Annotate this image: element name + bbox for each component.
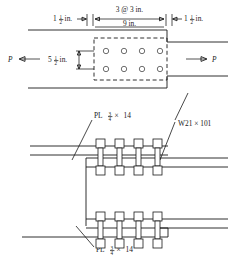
load-label-left: P [7,55,13,64]
lower-bolt [115,212,124,248]
edge-left-whole: 1 [53,14,57,23]
plate-top-width: 14 [124,111,132,120]
lower-bolt [134,212,143,248]
dim-label-edge-right: 1 1 2 in. [184,14,203,26]
edge-right-den: 2 [191,19,194,25]
beam-leader-upper [175,93,188,120]
dim-label-spacing: 3 @ 3 in. [116,5,143,14]
upper-bolt [134,139,143,175]
splice-plate-hidden-outline [94,38,167,80]
top-dimension-group: 1 1 2 in. 3 @ 3 in. 9 in. 1 1 2 in. [53,5,203,28]
plan-bolt-hole [121,48,126,53]
plate-top-prefix: PL [94,111,103,120]
plan-bolt-hole [139,48,144,53]
callout-plate-top: PL 3 4 × 14 [94,111,131,123]
plate-top-den: 4 [109,116,112,122]
edge-right-unit: in. [196,14,204,23]
plan-bolt-hole [121,66,126,71]
gage-whole: 5 [48,55,52,64]
lower-bolt [153,212,162,248]
plate-top-times: × [115,111,119,120]
dim-label-edge-left: 1 1 2 in. [53,14,72,26]
plan-bolt-hole [139,66,144,71]
plate-bottom-den: 4 [111,250,114,256]
svg-text:1: 1 [184,14,188,23]
edge-left-den: 2 [60,19,63,25]
upper-bolt [96,139,105,175]
plate-bottom-leader [76,226,94,247]
edge-right-whole: 1 [184,14,188,23]
engineering-drawing-figure: 1 1 2 in. 3 @ 3 in. 9 in. 1 1 2 in. [0,0,245,267]
plate-top-leader [72,120,92,160]
plate-bottom-width: 14 [126,245,134,254]
upper-bolt [153,139,162,175]
gage-unit: in. [60,55,68,64]
upper-bolt [115,139,124,175]
dim-label-gage: 5 1 2 in. [48,55,67,67]
svg-text:5: 5 [48,55,52,64]
svg-text:1: 1 [53,14,57,23]
gage-den: 2 [55,60,58,66]
splice-connection-svg: 1 1 2 in. 3 @ 3 in. 9 in. 1 1 2 in. [0,0,245,267]
plan-bolt-hole [103,66,108,71]
callout-beam: W21 × 101 [178,119,212,128]
edge-left-unit: in. [65,14,73,23]
load-label-right: P [211,55,217,64]
plan-bolt-hole [157,66,162,71]
plan-view-group: 5 1 2 in. P P [7,30,228,88]
side-view-upper-group [30,139,228,226]
dim-label-total: 9 in. [123,19,136,28]
side-view-lower-group [22,212,228,248]
plan-bolt-hole [157,48,162,53]
plan-bolt-hole [103,48,108,53]
lower-bolt [96,212,105,248]
